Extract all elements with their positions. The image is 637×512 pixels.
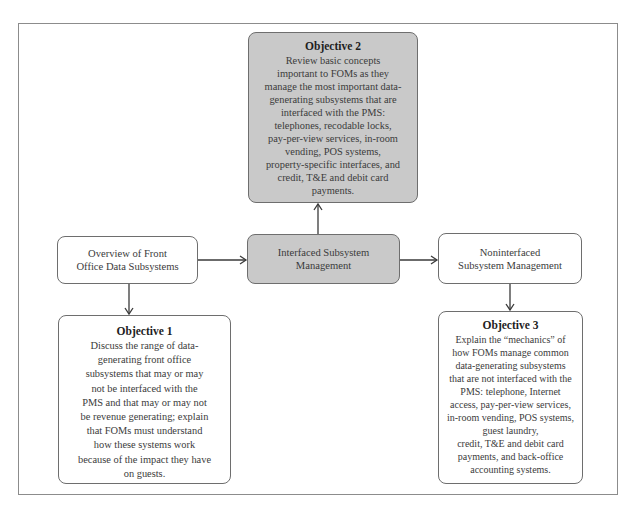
text-line: pay-per-view services, in-room <box>253 132 413 145</box>
objective-3-title: Objective 3 <box>442 318 579 332</box>
text-line: vending, POS systems, <box>253 145 413 158</box>
objective-1-box: Objective 1 Discuss the range of data- g… <box>58 315 231 484</box>
text-line: Discuss the range of data- <box>63 339 226 353</box>
overview-node: Overview of Front Office Data Subsystems <box>57 236 198 284</box>
objective-1-title: Objective 1 <box>63 324 226 338</box>
text-line: PMS: telephone, Internet <box>442 385 579 398</box>
text-line: Subsystem Management <box>458 259 562 272</box>
text-line: manage the most important data- <box>253 80 413 93</box>
text-line: Overview of Front <box>76 247 178 260</box>
objective-3-text: Explain the “mechanics” of how FOMs mana… <box>442 333 579 476</box>
text-line: Explain the “mechanics” of <box>442 333 579 346</box>
text-line: payments. <box>253 184 413 197</box>
text-line: that FOMs must understand <box>63 424 226 438</box>
objective-2-box: Objective 2 Review basic concepts import… <box>248 32 418 203</box>
objective-2-text: Review basic concepts important to FOMs … <box>253 54 413 197</box>
text-line: property-specific interfaces, and <box>253 158 413 171</box>
text-line: Office Data Subsystems <box>76 260 178 273</box>
text-line: access, pay-per-view services, <box>442 398 579 411</box>
text-line: Interfaced Subsystem <box>278 246 370 259</box>
text-line: data-generating subsystems <box>442 359 579 372</box>
text-line: accounting systems. <box>442 463 579 476</box>
text-line: interfaced with the PMS: <box>253 106 413 119</box>
text-line: be revenue generating; explain <box>63 410 226 424</box>
noninterfaced-subsystem-node: Noninterfaced Subsystem Management <box>438 233 582 284</box>
text-line: generating subsystems that are <box>253 93 413 106</box>
text-line: that are not interfaced with the <box>442 372 579 385</box>
text-line: credit, T&E and debit card <box>253 171 413 184</box>
text-line: important to FOMs as they <box>253 67 413 80</box>
objective-3-box: Objective 3 Explain the “mechanics” of h… <box>438 311 583 484</box>
text-line: telephones, recodable locks, <box>253 119 413 132</box>
text-line: credit, T&E and debit card <box>442 437 579 450</box>
text-line: how these systems work <box>63 438 226 452</box>
interfaced-subsystem-node: Interfaced Subsystem Management <box>247 234 400 284</box>
text-line: payments, and back-office <box>442 450 579 463</box>
text-line: generating front office <box>63 353 226 367</box>
text-line: Management <box>278 259 370 272</box>
text-line: Noninterfaced <box>458 246 562 259</box>
text-line: how FOMs manage common <box>442 346 579 359</box>
text-line: on guests. <box>63 467 226 481</box>
text-line: subsystems that may or may <box>63 367 226 381</box>
text-line: Review basic concepts <box>253 54 413 67</box>
objective-2-title: Objective 2 <box>253 39 413 53</box>
objective-1-text: Discuss the range of data- generating fr… <box>63 339 226 481</box>
text-line: PMS and that may or may not <box>63 396 226 410</box>
text-line: because of the impact they have <box>63 453 226 467</box>
text-line: guest laundry, <box>442 424 579 437</box>
text-line: in-room vending, POS systems, <box>442 411 579 424</box>
text-line: not be interfaced with the <box>63 382 226 396</box>
